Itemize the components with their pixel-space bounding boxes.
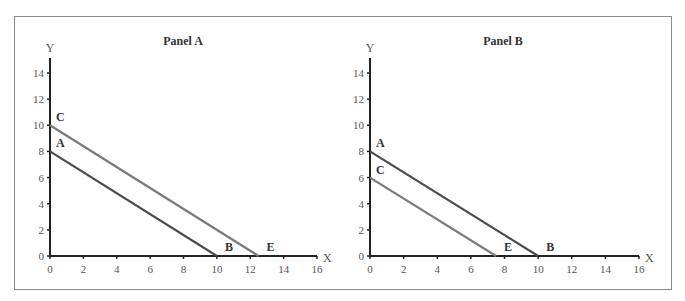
x-tick-label: 12 bbox=[566, 263, 577, 275]
x-tick-label: 8 bbox=[502, 263, 508, 275]
x-tick-label: 12 bbox=[245, 263, 256, 275]
y-tick-label: 0 bbox=[39, 250, 45, 262]
panel-b-title: Panel B bbox=[483, 34, 523, 48]
y-tick-label: 10 bbox=[33, 119, 45, 131]
y-tick-label: 14 bbox=[353, 67, 365, 79]
panel-b-x-axis-label: X bbox=[645, 251, 654, 265]
y-tick-label: 12 bbox=[33, 93, 44, 105]
y-tick-label: 6 bbox=[39, 172, 45, 184]
x-tick-label: 10 bbox=[211, 263, 223, 275]
y-tick-label: 4 bbox=[359, 198, 365, 210]
point-label-b: B bbox=[546, 240, 554, 254]
x-tick-label: 14 bbox=[278, 263, 290, 275]
panel-a-line-ce bbox=[50, 125, 259, 256]
y-tick-label: 4 bbox=[39, 198, 45, 210]
y-tick-label: 12 bbox=[353, 93, 364, 105]
y-tick-label: 10 bbox=[353, 119, 365, 131]
x-tick-label: 4 bbox=[435, 263, 441, 275]
x-tick-label: 6 bbox=[468, 263, 474, 275]
y-tick-label: 6 bbox=[359, 172, 365, 184]
chart-canvas: Panel AYX024681012140246810121416ABCEPan… bbox=[0, 0, 685, 301]
panel-a-title: Panel A bbox=[163, 34, 203, 48]
x-tick-label: 14 bbox=[600, 263, 612, 275]
y-tick-label: 8 bbox=[39, 145, 45, 157]
panel-b-y-axis-label: Y bbox=[366, 41, 375, 55]
x-tick-label: 0 bbox=[47, 263, 53, 275]
point-label-c: C bbox=[56, 110, 65, 124]
y-tick-label: 8 bbox=[359, 145, 365, 157]
x-tick-label: 4 bbox=[114, 263, 120, 275]
y-tick-label: 2 bbox=[359, 224, 365, 236]
x-tick-label: 6 bbox=[147, 263, 153, 275]
x-tick-label: 0 bbox=[367, 263, 373, 275]
x-tick-label: 16 bbox=[312, 263, 324, 275]
y-tick-label: 2 bbox=[39, 224, 45, 236]
y-tick-label: 0 bbox=[359, 250, 365, 262]
point-label-a: A bbox=[376, 136, 385, 150]
panel-b-line-ab bbox=[370, 151, 538, 256]
point-label-e: E bbox=[504, 240, 512, 254]
y-tick-label: 14 bbox=[33, 67, 45, 79]
x-tick-label: 2 bbox=[81, 263, 87, 275]
point-label-e: E bbox=[267, 240, 275, 254]
panel-a-x-axis-label: X bbox=[323, 251, 332, 265]
x-tick-label: 10 bbox=[533, 263, 545, 275]
point-label-c: C bbox=[376, 163, 385, 177]
x-tick-label: 16 bbox=[634, 263, 646, 275]
point-label-a: A bbox=[56, 136, 65, 150]
x-tick-label: 8 bbox=[181, 263, 187, 275]
panel-a-line-ab bbox=[50, 151, 217, 256]
panel-b-line-ce bbox=[370, 178, 496, 256]
panel-a-y-axis-label: Y bbox=[46, 41, 55, 55]
x-tick-label: 2 bbox=[401, 263, 407, 275]
point-label-b: B bbox=[225, 240, 233, 254]
